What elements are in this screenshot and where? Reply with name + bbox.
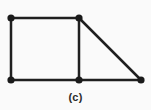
node-bottom-left (7, 76, 14, 83)
graph-nodes (7, 14, 144, 83)
node-top-left (7, 14, 14, 21)
node-top-middle (75, 14, 82, 21)
figure-caption: (c) (0, 91, 151, 104)
figure-container: (c) (0, 0, 151, 110)
node-bottom-middle (75, 76, 82, 83)
node-bottom-right (137, 76, 144, 83)
edge-diagonal-hypotenuse (79, 18, 141, 80)
graph-edges (11, 18, 141, 80)
